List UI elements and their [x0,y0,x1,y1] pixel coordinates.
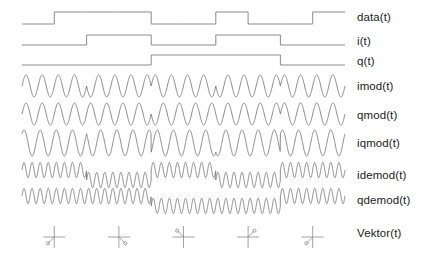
row-label-idemod: idemod(t) [357,170,406,182]
trace-qmod [22,103,345,125]
row-label-i: i(t) [357,36,371,48]
row-label-q: q(t) [357,56,375,68]
row-label-qmod: qmod(t) [357,110,397,122]
trace-iqmod [22,130,345,156]
trace-i [22,35,345,45]
vector-symbol-5 [302,226,324,248]
row-label-vektor: Vektor(t) [357,228,401,240]
vector-symbol-3 [173,226,195,248]
trace-idemod [22,162,345,187]
waveform-canvas [0,0,448,260]
qpsk-timing-diagram: data(t) i(t) q(t) imod(t) qmod(t) iqmod(… [0,0,448,260]
row-label-imod: imod(t) [357,81,393,93]
vector-symbol-1 [43,226,65,248]
vector-symbol-2 [108,226,130,248]
trace-q [22,55,345,65]
trace-imod [22,75,345,97]
vector-symbol-4 [237,226,259,248]
row-label-data: data(t) [357,12,391,24]
trace-qdemod [22,188,345,213]
trace-data [22,12,345,24]
row-label-qdemod: qdemod(t) [357,195,410,207]
row-label-iqmod: iqmod(t) [357,138,400,150]
